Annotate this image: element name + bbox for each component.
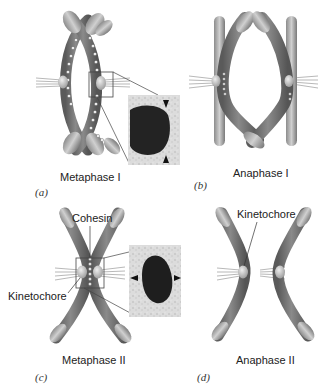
meiosis-figure: Metaphase I (a) Anaphase I (b): [0, 0, 332, 387]
spindle-fibers-left: [189, 76, 215, 88]
stage-label: Anaphase I: [233, 167, 289, 179]
panel-letter: (c): [35, 371, 48, 384]
chromatid-tip: [101, 135, 124, 158]
panel-b-anaphase-1: Anaphase I (b): [189, 8, 318, 192]
stage-label: Metaphase I: [60, 171, 121, 183]
panel-a-metaphase-1: Metaphase I (a): [35, 8, 180, 199]
panel-d-anaphase-2: Kinetochore Anaphase II (d): [197, 204, 318, 384]
kinetochore: [212, 75, 221, 87]
kinetochore-pointer: [244, 222, 257, 266]
kinetochore-label: Kinetochore: [237, 208, 296, 220]
kinetochore: [275, 266, 285, 279]
spindle-fibers-left: [217, 268, 240, 280]
cohesin-label: Cohesin: [72, 212, 112, 224]
kinetochore: [238, 266, 248, 279]
stage-label: Anaphase II: [236, 354, 295, 366]
kinetochore: [285, 75, 294, 87]
spindle-fibers-right: [104, 78, 130, 87]
stage-label: Metaphase II: [62, 354, 126, 366]
chromatid-bent-left: [223, 18, 258, 140]
panel-letter: (a): [35, 186, 48, 199]
micrograph-a: [128, 95, 180, 165]
panel-letter: (d): [197, 371, 210, 384]
zoom-line: [97, 97, 130, 165]
kinetochore-label: Kinetochore: [8, 290, 67, 302]
chromatid-bent-right: [252, 18, 287, 142]
zoom-line: [113, 72, 158, 95]
micrograph-c: [129, 245, 181, 317]
kinetochore: [93, 266, 103, 279]
kinetochore-pointer: [68, 278, 80, 293]
panel-letter: (b): [194, 179, 207, 192]
kinetochore: [96, 76, 106, 90]
kinetochore: [58, 76, 68, 89]
kinetochore: [77, 266, 87, 279]
panel-c-metaphase-2: Cohesin Kinetochore Metaphase II (c): [8, 205, 181, 384]
zoom-line: [104, 252, 129, 258]
